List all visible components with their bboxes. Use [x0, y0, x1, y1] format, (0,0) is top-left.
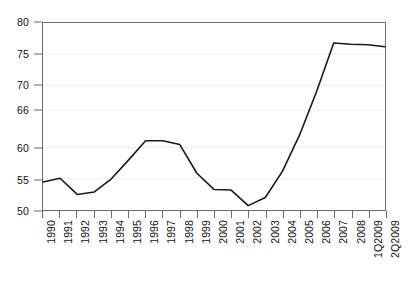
x-axis-tick-label: 2004: [287, 220, 298, 244]
x-axis-tick-label: 2002: [252, 220, 263, 244]
y-axis-tick-label: 55: [17, 174, 29, 185]
y-axis-tick-mark: [34, 85, 42, 86]
y-axis-tick-label: 50: [17, 206, 29, 217]
line-chart: 50556066707580 1990199119921993199419951…: [0, 0, 408, 282]
x-axis-tick-mark: [283, 211, 284, 218]
y-axis-tick-label: 80: [17, 17, 29, 28]
x-axis-tick-mark: [94, 211, 95, 218]
x-axis-tick-label: 2008: [356, 220, 367, 244]
x-axis-tick-label: 2000: [218, 220, 229, 244]
x-axis-tick-mark: [59, 211, 60, 218]
x-axis-tick-label: 1996: [149, 220, 160, 244]
x-axis-tick-mark: [76, 211, 77, 218]
x-axis-tick-label: 1991: [63, 220, 74, 244]
y-axis-tick-mark: [34, 148, 42, 149]
plot-area: [42, 22, 386, 211]
x-axis-tick-label: 2005: [304, 220, 315, 244]
x-axis: 1990199119921993199419951996199719981999…: [42, 211, 386, 282]
x-axis-tick-label: 1993: [98, 220, 109, 244]
x-axis-tick-label: 2007: [338, 220, 349, 244]
y-axis-tick-mark: [34, 53, 42, 54]
x-axis-tick-label: 1998: [184, 220, 195, 244]
y-axis-tick-mark: [34, 211, 42, 212]
x-axis-tick-label: 2001: [235, 220, 246, 244]
x-axis-tick-label: 1Q2009: [373, 220, 384, 258]
x-axis-tick-mark: [369, 211, 370, 218]
x-axis-tick-mark: [128, 211, 129, 218]
x-axis-tick-label: 1992: [80, 220, 91, 244]
y-axis-tick-label: 60: [17, 143, 29, 154]
x-axis-tick-label: 1994: [115, 220, 126, 244]
x-axis-tick-mark: [180, 211, 181, 218]
x-axis-tick-mark: [248, 211, 249, 218]
y-axis-tick-mark: [34, 22, 42, 23]
y-axis-tick-mark: [34, 179, 42, 180]
x-axis-tick-mark: [317, 211, 318, 218]
y-axis-tick-label: 70: [17, 80, 29, 91]
y-axis: 50556066707580: [0, 0, 42, 282]
x-axis-tick-label: 1995: [132, 220, 143, 244]
x-axis-tick-mark: [300, 211, 301, 218]
x-axis-tick-mark: [145, 211, 146, 218]
x-axis-tick-mark: [334, 211, 335, 218]
x-axis-tick-label: 2Q2009: [390, 220, 401, 258]
x-axis-tick-label: 1999: [201, 220, 212, 244]
x-axis-tick-mark: [214, 211, 215, 218]
x-axis-tick-label: 1997: [166, 220, 177, 244]
x-axis-tick-mark: [197, 211, 198, 218]
series-line-series-1: [43, 43, 385, 206]
x-axis-tick-mark: [42, 211, 43, 218]
x-axis-tick-mark: [162, 211, 163, 218]
x-axis-tick-mark: [386, 211, 387, 218]
x-axis-tick-mark: [266, 211, 267, 218]
data-series-line: [43, 23, 385, 210]
x-axis-tick-label: 1990: [46, 220, 57, 244]
x-axis-tick-mark: [352, 211, 353, 218]
y-axis-tick-mark: [34, 110, 42, 111]
x-axis-tick-mark: [231, 211, 232, 218]
y-axis-tick-label: 75: [17, 48, 29, 59]
y-axis-tick-label: 66: [17, 105, 29, 116]
x-axis-tick-label: 2006: [321, 220, 332, 244]
x-axis-tick-mark: [111, 211, 112, 218]
x-axis-tick-label: 2003: [270, 220, 281, 244]
